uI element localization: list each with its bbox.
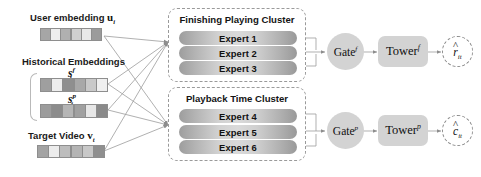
embedding-cell	[48, 145, 60, 158]
output-node-c: cit	[442, 115, 473, 146]
target-video-symbol: vt	[87, 129, 94, 141]
expert-pill-3[interactable]: Expert 3	[179, 61, 297, 75]
embedding-cell	[91, 28, 102, 41]
tower-p[interactable]: Towerp	[378, 115, 428, 146]
embedding-cell	[59, 145, 71, 158]
diagram-canvas: User embedding ui Historical Embeddings …	[0, 0, 481, 177]
gate-f-label: Gatef	[334, 46, 358, 58]
embedding-cell	[71, 145, 83, 158]
embedding-cell	[96, 104, 108, 118]
expert-pill-6[interactable]: Expert 6	[179, 140, 297, 154]
embedding-cell	[62, 78, 74, 92]
target-video-vector	[37, 145, 104, 158]
output-r-label: rit	[453, 46, 461, 58]
embedding-cell	[82, 145, 94, 158]
embedding-cell	[85, 104, 97, 118]
embedding-cell	[40, 78, 52, 92]
target-video-label: Target Video vt	[28, 130, 95, 141]
gate-p-label: Gatep	[333, 125, 358, 137]
tower-f[interactable]: Towerf	[378, 36, 428, 67]
historical-embeddings-label: Historical Embeddings	[22, 57, 125, 67]
user-embedding-vector	[40, 28, 101, 41]
embedding-cell	[62, 104, 74, 118]
output-c-label: cit	[453, 125, 462, 137]
user-embedding-symbol: ui	[107, 11, 115, 23]
tower-f-label: Towerf	[386, 44, 420, 59]
embedding-cell	[93, 145, 105, 158]
expert-pill-1[interactable]: Expert 1	[179, 31, 297, 45]
gate-f[interactable]: Gatef	[327, 33, 364, 70]
historical-f-vector	[40, 78, 107, 92]
user-embedding-label: User embedding ui	[30, 12, 115, 23]
gate-p[interactable]: Gatep	[327, 112, 364, 149]
expert-pill-5[interactable]: Expert 5	[179, 125, 297, 139]
output-node-r: rit	[442, 36, 473, 67]
embedding-cell	[74, 104, 86, 118]
embedding-cell	[85, 78, 97, 92]
historical-p-vector	[40, 104, 107, 118]
expert-pill-4[interactable]: Expert 4	[179, 109, 297, 123]
embedding-cell	[51, 78, 63, 92]
tower-p-label: Towerp	[385, 123, 421, 138]
embedding-cell	[37, 145, 49, 158]
expert-pill-2[interactable]: Expert 2	[179, 46, 297, 60]
embedding-cell	[74, 78, 86, 92]
cluster-finishing-title: Finishing Playing Cluster	[169, 14, 305, 25]
cluster-playback-title: Playback Time Cluster	[169, 93, 305, 104]
historical-group-brace	[30, 73, 37, 121]
cluster-playback: Playback Time Cluster Expert 4 Expert 5 …	[168, 87, 306, 161]
embedding-cell	[96, 78, 108, 92]
cluster-finishing: Finishing Playing Cluster Expert 1 Exper…	[168, 8, 306, 82]
embedding-cell	[40, 104, 52, 118]
embedding-cell	[51, 104, 63, 118]
